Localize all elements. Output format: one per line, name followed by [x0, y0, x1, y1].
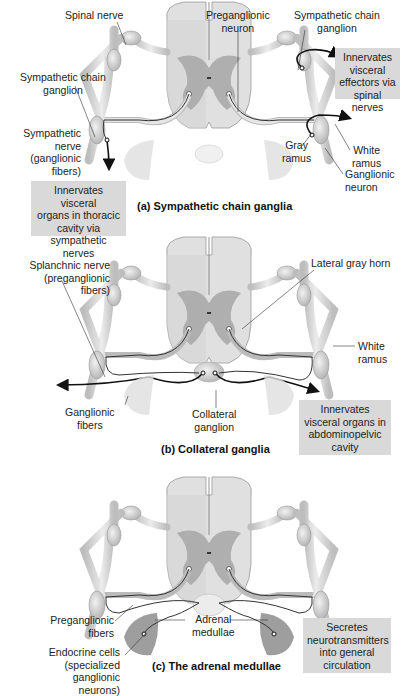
- label-sympathetic-nerve: Sympathetic nerve (ganglionic fibers): [17, 127, 81, 177]
- label-splanchnic-nerve: Splanchnic nerve (preganglionic fibers): [18, 259, 110, 297]
- box-abdominopelvic: Innervates visceral organs in abdominope…: [299, 400, 391, 455]
- panel-a-title: (a) Sympathetic chain ganglia: [137, 200, 292, 212]
- label-sympathetic-chain-ganglion-left: Sympathetic chain ganglion: [20, 71, 106, 96]
- label-gray-ramus: Gray ramus: [282, 139, 311, 164]
- box-secretes: Secretes neurotransmitters into general …: [303, 618, 391, 673]
- label-spinal-nerve: Spinal nerve: [65, 9, 123, 22]
- panel-b-title: (b) Collateral ganglia: [161, 443, 270, 455]
- panel-c-title: (c) The adrenal medullae: [152, 660, 281, 672]
- label-endocrine-cells: Endocrine cells (specialized ganglionic …: [38, 646, 120, 696]
- label-ganglionic-fibers: Ganglionic fibers: [65, 406, 115, 431]
- label-lateral-gray-horn: Lateral gray horn: [311, 257, 390, 270]
- label-preganglionic-fibers: Preganglionic fibers: [44, 614, 114, 639]
- box-visceral-effectors: Innervates visceral effectors via spinal…: [335, 48, 400, 99]
- label-preganglionic-neuron: Preganglionic neuron: [206, 9, 270, 34]
- box-thoracic-organs: Innervates visceral organs in thoracic c…: [31, 181, 126, 236]
- label-white-ramus-a: White ramus: [352, 144, 381, 169]
- label-adrenal-medullae: Adrenal medullae: [192, 613, 235, 638]
- label-ganglionic-neuron: Ganglionic neuron: [345, 168, 395, 193]
- label-sympathetic-chain-ganglion-right: Sympathetic chain ganglion: [294, 9, 380, 34]
- label-white-ramus-b: White ramus: [358, 340, 387, 365]
- label-collateral-ganglion: Collateral ganglion: [192, 408, 236, 433]
